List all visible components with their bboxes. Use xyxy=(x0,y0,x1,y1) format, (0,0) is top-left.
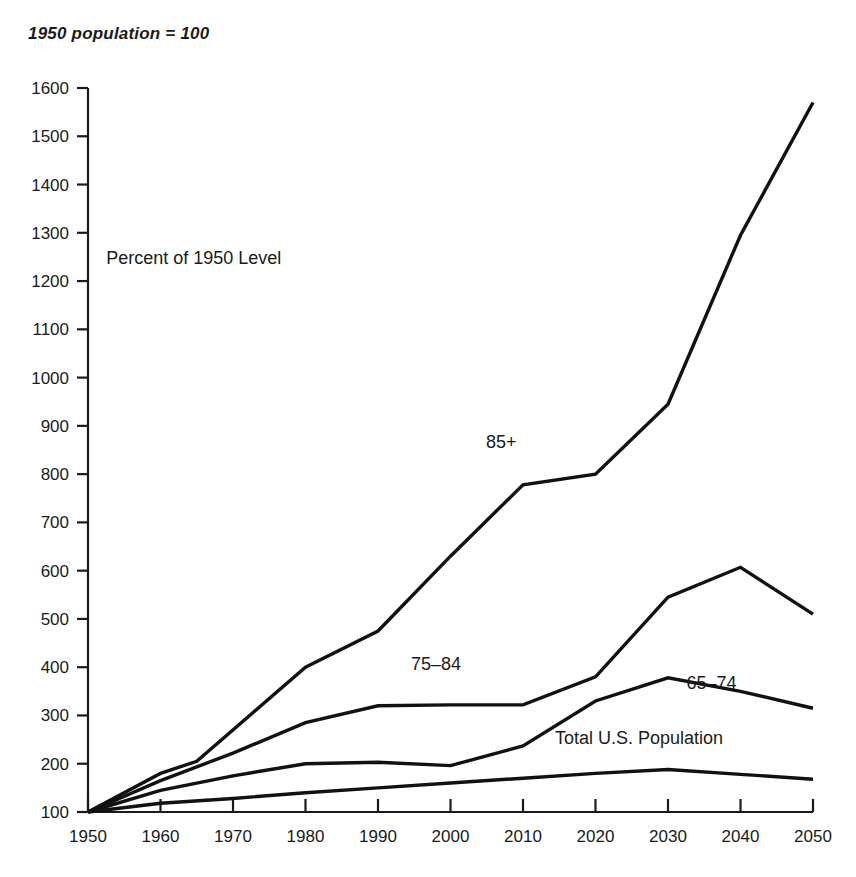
y-tick-label: 800 xyxy=(41,465,69,484)
x-tick-label: 1970 xyxy=(214,827,252,846)
y-axis-ticks xyxy=(77,88,88,812)
y-tick-label: 400 xyxy=(41,658,69,677)
series-label-total-u-s-population: Total U.S. Population xyxy=(555,728,723,748)
y-tick-label: 1200 xyxy=(31,272,69,291)
x-axis-tick-labels: 1950196019701980199020002010202020302040… xyxy=(69,827,832,846)
x-tick-label: 1950 xyxy=(69,827,107,846)
y-tick-label: 600 xyxy=(41,562,69,581)
population-growth-figure: 1950 population = 100 100200300400500600… xyxy=(0,0,856,877)
x-tick-label: 2020 xyxy=(577,827,615,846)
x-tick-label: 2010 xyxy=(504,827,542,846)
inner-axis-label: Percent of 1950 Level xyxy=(106,248,281,268)
x-tick-label: 2030 xyxy=(649,827,687,846)
y-tick-label: 1600 xyxy=(31,79,69,98)
series-label-85: 85+ xyxy=(486,432,517,452)
y-tick-label: 1000 xyxy=(31,369,69,388)
line-chart-plot: 1002003004005006007008009001000110012001… xyxy=(0,0,856,877)
y-tick-label: 100 xyxy=(41,803,69,822)
y-tick-label: 700 xyxy=(41,513,69,532)
y-tick-label: 200 xyxy=(41,755,69,774)
x-tick-label: 1990 xyxy=(359,827,397,846)
y-tick-label: 500 xyxy=(41,610,69,629)
y-tick-label: 1500 xyxy=(31,127,69,146)
x-tick-label: 1960 xyxy=(142,827,180,846)
x-tick-label: 1980 xyxy=(287,827,325,846)
y-tick-label: 1300 xyxy=(31,224,69,243)
y-tick-label: 900 xyxy=(41,417,69,436)
y-tick-label: 300 xyxy=(41,706,69,725)
x-tick-label: 2040 xyxy=(722,827,760,846)
series-label-75-84: 75–84 xyxy=(411,654,461,674)
y-tick-label: 1100 xyxy=(32,320,69,339)
series-label-65-74: 65–74 xyxy=(686,673,736,693)
y-tick-label: 1400 xyxy=(31,176,69,195)
y-axis-tick-labels: 1002003004005006007008009001000110012001… xyxy=(31,79,69,822)
x-tick-label: 2000 xyxy=(432,827,470,846)
data-series-lines xyxy=(88,102,813,812)
x-tick-label: 2050 xyxy=(794,827,832,846)
